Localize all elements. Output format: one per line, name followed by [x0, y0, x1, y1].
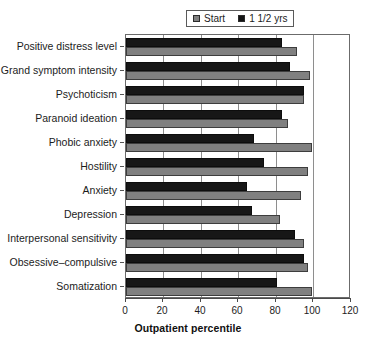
- bar-group: [126, 179, 349, 203]
- category-label: Grand symptom intensity: [0, 58, 121, 82]
- category-tick: [120, 70, 124, 71]
- bar-followup: [126, 158, 264, 167]
- bar-followup: [126, 110, 282, 119]
- x-axis-tick-label: 120: [330, 305, 370, 316]
- x-axis-tick: [162, 298, 163, 302]
- bar-followup: [126, 206, 252, 215]
- bar-followup: [126, 134, 254, 143]
- legend-swatch-icon-followup: [238, 15, 245, 22]
- category-label: Anxiety: [0, 178, 121, 202]
- bar-group: [126, 155, 349, 179]
- category-label: Somatization: [0, 274, 121, 298]
- bar-start: [126, 191, 301, 200]
- legend-item-followup: 1 1/2 yrs: [238, 14, 287, 24]
- category-tick: [120, 46, 124, 47]
- category-tick: [120, 238, 124, 239]
- x-axis-tick-label: 0: [105, 305, 145, 316]
- bar-group: [126, 275, 349, 299]
- legend-label-start: Start: [204, 14, 225, 24]
- x-axis-tick: [275, 298, 276, 302]
- category-label: Paranoid ideation: [0, 106, 121, 130]
- category-tick: [120, 118, 124, 119]
- legend-label-followup: 1 1/2 yrs: [249, 14, 287, 24]
- bar-group: [126, 251, 349, 275]
- plot-area: [125, 34, 350, 298]
- chart-legend: Start 1 1/2 yrs: [186, 10, 294, 27]
- category-axis-labels: Positive distress level Grand symptom in…: [0, 34, 121, 298]
- bar-start: [126, 119, 288, 128]
- bar-followup: [126, 62, 290, 71]
- x-axis-tick: [350, 298, 351, 302]
- category-label: Phobic anxiety: [0, 130, 121, 154]
- bar-group: [126, 107, 349, 131]
- category-tick: [120, 286, 124, 287]
- bar-group: [126, 227, 349, 251]
- category-label: Positive distress level: [0, 34, 121, 58]
- bar-followup: [126, 254, 304, 263]
- legend-swatch-icon-start: [193, 15, 200, 22]
- category-tick: [120, 94, 124, 95]
- bar-group: [126, 35, 349, 59]
- x-axis-tick-label: 60: [217, 305, 257, 316]
- bar-start: [126, 95, 304, 104]
- bar-start: [126, 71, 310, 80]
- category-label: Depression: [0, 202, 121, 226]
- x-axis-tick: [200, 298, 201, 302]
- x-axis-tick: [125, 298, 126, 302]
- legend-item-start: Start: [193, 14, 225, 24]
- x-axis-line: [125, 298, 351, 299]
- bar-start: [126, 239, 304, 248]
- bar-start: [126, 215, 280, 224]
- x-axis-tick: [237, 298, 238, 302]
- category-label: Psychoticism: [0, 82, 121, 106]
- bar-start: [126, 263, 308, 272]
- bar-start: [126, 167, 308, 176]
- bar-start: [126, 287, 312, 296]
- bar-group: [126, 131, 349, 155]
- bar-group: [126, 59, 349, 83]
- category-label: Obsessive–compulsive: [0, 250, 121, 274]
- bar-group: [126, 203, 349, 227]
- category-tick: [120, 262, 124, 263]
- bar-followup: [126, 86, 304, 95]
- x-axis-tick: [312, 298, 313, 302]
- bar-chart: Start 1 1/2 yrs Positive distress level …: [0, 0, 376, 345]
- category-label: Hostility: [0, 154, 121, 178]
- x-axis-tick-label: 20: [142, 305, 182, 316]
- bar-followup: [126, 38, 282, 47]
- bar-start: [126, 143, 312, 152]
- category-label: Interpersonal sensitivity: [0, 226, 121, 250]
- bar-followup: [126, 278, 277, 287]
- bar-followup: [126, 230, 295, 239]
- bar-followup: [126, 182, 247, 191]
- x-axis-tick-label: 100: [292, 305, 332, 316]
- bar-group: [126, 83, 349, 107]
- category-tick: [120, 190, 124, 191]
- x-axis-tick-label: 40: [180, 305, 220, 316]
- category-tick: [120, 214, 124, 215]
- category-tick: [120, 166, 124, 167]
- x-axis-tick-label: 80: [255, 305, 295, 316]
- bar-start: [126, 47, 297, 56]
- x-axis-title: Outpatient percentile: [0, 322, 376, 334]
- category-tick: [120, 142, 124, 143]
